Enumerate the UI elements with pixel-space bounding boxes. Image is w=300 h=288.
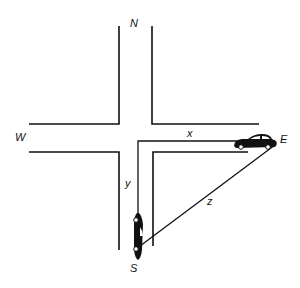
intersection-diagram: N W E S x y z: [0, 0, 300, 288]
label-south: S: [130, 262, 138, 274]
road-edge-southeast: [153, 152, 248, 246]
road-edge-southwest: [29, 152, 119, 250]
car-south-icon: [134, 213, 143, 260]
label-east: E: [280, 133, 288, 145]
label-west: W: [15, 131, 27, 143]
car-east-icon: [234, 134, 277, 149]
label-z: z: [206, 195, 213, 207]
road-edge-northeast: [152, 26, 259, 124]
road-edge-northwest: [29, 26, 119, 124]
label-x: x: [186, 127, 193, 139]
label-north: N: [130, 17, 138, 29]
label-y: y: [124, 177, 132, 189]
